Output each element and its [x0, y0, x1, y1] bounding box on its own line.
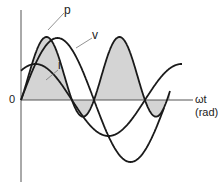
p-label: p [64, 5, 71, 16]
p-leader-line [48, 13, 64, 30]
v-leader-line [76, 38, 92, 48]
power-waveform-diagram [0, 0, 223, 190]
x-axis-unit: (rad) [195, 107, 218, 118]
origin-label: 0 [9, 94, 15, 105]
i-label: i [58, 60, 61, 71]
v-label: v [92, 30, 98, 41]
x-axis-label: ωt [195, 94, 207, 105]
